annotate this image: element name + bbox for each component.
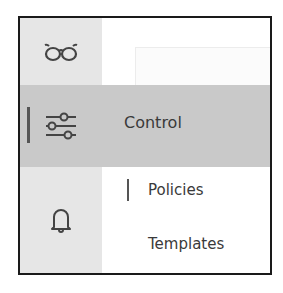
- nav-item-notifications[interactable]: Policies Templates: [20, 167, 270, 273]
- nav-item-label: Control: [124, 113, 182, 132]
- submenu-selection-indicator: [127, 179, 129, 201]
- navigation-panel: Control Policies Templates: [18, 16, 272, 275]
- submenu: Policies Templates: [102, 167, 270, 273]
- bell-icon: [20, 167, 102, 273]
- sliders-icon: [20, 85, 102, 167]
- nav-item-control[interactable]: Control: [20, 85, 270, 167]
- glasses-icon: [20, 18, 102, 85]
- submenu-item-templates[interactable]: Templates: [148, 235, 224, 253]
- submenu-item-policies[interactable]: Policies: [148, 181, 203, 199]
- content-placeholder: [135, 47, 272, 87]
- nav-item-view[interactable]: [20, 18, 270, 85]
